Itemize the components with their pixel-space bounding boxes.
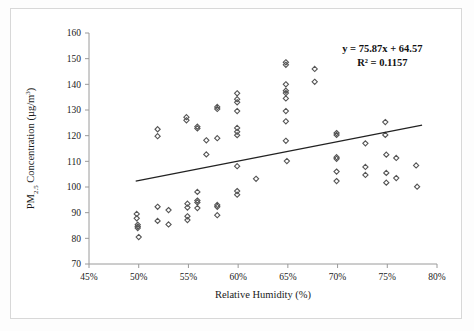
data-point-marker (394, 175, 399, 180)
data-point-marker (215, 136, 220, 141)
data-point-marker (204, 152, 209, 157)
data-point-marker (414, 163, 419, 168)
figure-container: 708090100110120130140150160 45%50%55%60%… (0, 0, 474, 331)
y-tick-label: 70 (72, 259, 82, 269)
trendline-group (136, 125, 422, 181)
data-point-marker (283, 108, 288, 113)
data-point-marker (235, 192, 240, 197)
data-point-marker (195, 205, 200, 210)
data-point-marker (283, 96, 288, 101)
data-point-marker (204, 138, 209, 143)
y-tick-label: 80 (72, 234, 82, 244)
y-tick-label: 140 (67, 80, 82, 90)
data-point-marker (155, 204, 160, 209)
x-tick-label: 50% (130, 272, 148, 282)
data-point-marker (312, 79, 317, 84)
axis-labels-group: Relative Humidity (%)PM2.5 Concentration… (24, 87, 312, 301)
data-point-marker (363, 164, 368, 169)
y-tick-label: 110 (67, 157, 81, 167)
data-point-marker (384, 152, 389, 157)
data-point-marker (235, 164, 240, 169)
x-tick-label: 45% (80, 272, 98, 282)
data-point-marker (155, 127, 160, 132)
data-point-marker (155, 218, 160, 223)
data-point-marker (235, 189, 240, 194)
trendline-equation-label: y = 75.87x + 64.57 (342, 43, 422, 54)
y-axis-title: PM2.5 Concentration (µg/m3) (24, 87, 40, 209)
x-tick-label: 75% (379, 272, 397, 282)
y-tick-label: 90 (72, 208, 82, 218)
x-axis-ticks: 45%50%55%60%65%70%75%80% (80, 264, 446, 282)
data-point-marker (363, 141, 368, 146)
data-point-marker (284, 158, 289, 163)
x-axis-title: Relative Humidity (%) (215, 289, 312, 301)
data-point-marker (195, 189, 200, 194)
data-point-marker (235, 108, 240, 113)
x-tick-label: 80% (428, 272, 446, 282)
data-point-marker (155, 134, 160, 139)
y-tick-label: 100 (67, 182, 82, 192)
data-point-marker (283, 138, 288, 143)
data-point-marker (334, 169, 339, 174)
data-points-group (134, 60, 420, 240)
annotations-group: y = 75.87x + 64.57R² = 0.1157 (342, 43, 422, 68)
data-point-marker (363, 172, 368, 177)
data-point-marker (166, 222, 171, 227)
x-tick-label: 55% (180, 272, 198, 282)
data-point-marker (166, 208, 171, 213)
r-squared-label: R² = 0.1157 (357, 57, 407, 68)
data-point-marker (383, 119, 388, 124)
x-tick-label: 60% (229, 272, 247, 282)
data-point-marker (384, 170, 389, 175)
y-tick-label: 120 (67, 131, 82, 141)
x-tick-label: 70% (329, 272, 347, 282)
y-tick-label: 150 (67, 54, 82, 64)
data-point-marker (384, 180, 389, 185)
x-tick-label: 65% (279, 272, 297, 282)
y-tick-label: 160 (67, 28, 82, 38)
data-point-marker (283, 82, 288, 87)
trendline (136, 125, 422, 181)
scatter-chart: 708090100110120130140150160 45%50%55%60%… (0, 0, 474, 331)
y-axis-ticks: 708090100110120130140150160 (67, 28, 89, 269)
data-point-marker (215, 213, 220, 218)
data-point-marker (312, 66, 317, 71)
data-point-marker (253, 176, 258, 181)
data-point-marker (136, 234, 141, 239)
data-point-marker (283, 119, 288, 124)
data-point-marker (334, 178, 339, 183)
y-tick-label: 130 (67, 105, 82, 115)
data-point-marker (394, 155, 399, 160)
data-point-marker (235, 91, 240, 96)
data-point-marker (415, 184, 420, 189)
